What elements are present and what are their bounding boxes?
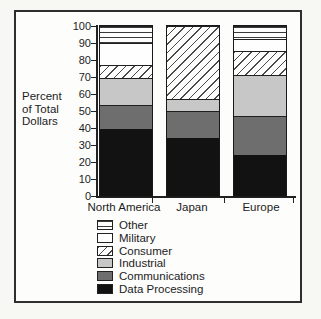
legend-label-data-processing: Data Processing [119, 283, 203, 295]
bar-segment-europe-consumer [234, 51, 286, 75]
y-axis-title-line: Percent [22, 90, 62, 103]
bar-segment-north-america-consumer [100, 65, 152, 79]
y-tick-mark-10 [91, 179, 96, 180]
y-tick-mark-30 [91, 145, 96, 146]
legend-swatch-military [97, 233, 113, 243]
legend-item-consumer: Consumer [97, 244, 205, 257]
y-tick-label-100: 100 [61, 21, 91, 32]
legend-swatch-other [97, 220, 113, 230]
y-tick-mark-50 [91, 111, 96, 112]
y-tick-label-90: 90 [61, 38, 91, 49]
bar-segment-europe-communications [234, 116, 286, 155]
y-axis-title: Percent of Total Dollars [22, 90, 62, 128]
legend-swatch-communications [97, 271, 113, 281]
legend-swatch-consumer [97, 246, 113, 256]
bar-segment-europe-military [234, 39, 286, 51]
legend-label-communications: Communications [119, 270, 205, 282]
legend-item-data-processing: Data Processing [97, 282, 205, 295]
bar-segment-japan-communications [167, 111, 219, 138]
y-tick-label-50: 50 [61, 106, 91, 117]
legend-item-communications: Communications [97, 270, 205, 283]
y-tick-label-40: 40 [61, 123, 91, 134]
y-tick-mark-70 [91, 77, 96, 78]
bar-segment-japan-consumer [167, 26, 219, 99]
legend-label-consumer: Consumer [119, 245, 172, 257]
bar-north-america [99, 25, 153, 197]
legend-swatch-data-processing [97, 284, 113, 294]
y-tick-label-60: 60 [61, 89, 91, 100]
y-tick-label-80: 80 [61, 55, 91, 66]
legend-label-other: Other [119, 219, 148, 231]
legend-item-industrial: Industrial [97, 257, 205, 270]
legend-swatch-industrial [97, 258, 113, 268]
y-tick-label-10: 10 [61, 174, 91, 185]
bar-segment-japan-industrial [167, 99, 219, 111]
y-tick-label-20: 20 [61, 157, 91, 168]
y-tick-mark-60 [91, 94, 96, 95]
y-tick-label-70: 70 [61, 72, 91, 83]
bar-segment-europe-other [234, 26, 286, 40]
y-axis-line [96, 25, 98, 197]
bar-segment-north-america-data-processing [100, 129, 152, 195]
legend-label-industrial: Industrial [119, 257, 166, 269]
bar-europe [233, 25, 287, 197]
legend-item-other: Other [97, 219, 205, 232]
bar-segment-europe-industrial [234, 75, 286, 116]
bar-segment-north-america-industrial [100, 78, 152, 105]
bar-segment-japan-data-processing [167, 138, 219, 196]
y-tick-mark-0 [91, 196, 96, 197]
bar-segment-north-america-military [100, 43, 152, 65]
legend: OtherMilitaryConsumerIndustrialCommunica… [97, 219, 205, 295]
y-axis-title-line: Dollars [22, 115, 62, 128]
y-tick-mark-20 [91, 162, 96, 163]
bar-segment-europe-data-processing [234, 155, 286, 196]
bar-japan [166, 25, 220, 197]
bar-segment-north-america-communications [100, 105, 152, 129]
figure-canvas: Percent of Total Dollars 100908070605040… [0, 0, 321, 319]
y-tick-label-0: 0 [61, 191, 91, 202]
bar-segment-north-america-other [100, 26, 152, 43]
y-tick-label-30: 30 [61, 140, 91, 151]
x-category-label-europe: Europe [211, 201, 311, 213]
legend-label-military: Military [119, 232, 155, 244]
y-tick-mark-80 [91, 60, 96, 61]
y-tick-mark-40 [91, 128, 96, 129]
y-axis-title-line: of Total [22, 103, 62, 116]
y-tick-mark-100 [91, 26, 96, 27]
y-tick-mark-90 [91, 43, 96, 44]
legend-item-military: Military [97, 232, 205, 245]
